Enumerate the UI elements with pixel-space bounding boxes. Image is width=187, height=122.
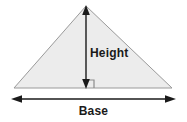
height-label: Height bbox=[90, 47, 129, 59]
triangle-diagram: Height Base bbox=[0, 0, 187, 122]
base-label: Base bbox=[0, 105, 187, 117]
base-arrowhead-right-icon bbox=[165, 95, 176, 103]
base-arrow bbox=[11, 95, 176, 103]
base-arrowhead-left-icon bbox=[11, 95, 22, 103]
